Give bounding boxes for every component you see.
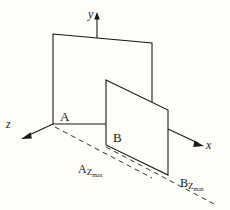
y-axis [94,12,100,38]
b-zmax-label: BZmax [180,177,204,192]
diagram-canvas: y x z A B AZmax BZmax [0,0,230,210]
a-zmax-subsub: max [92,172,102,178]
a-zmax-label: AZmax [78,163,103,178]
z-axis [21,124,53,139]
b-zmax-subsub: max [194,186,204,192]
b-zmax-base: B [180,176,188,190]
x-axis [168,129,204,147]
plane-b-label: B [113,131,122,144]
a-zmax-base: A [78,162,87,176]
y-axis-label: y [88,8,93,20]
x-axis-label: x [206,139,211,151]
plane-a-label: A [60,110,69,123]
z-axis-label: z [6,118,11,130]
